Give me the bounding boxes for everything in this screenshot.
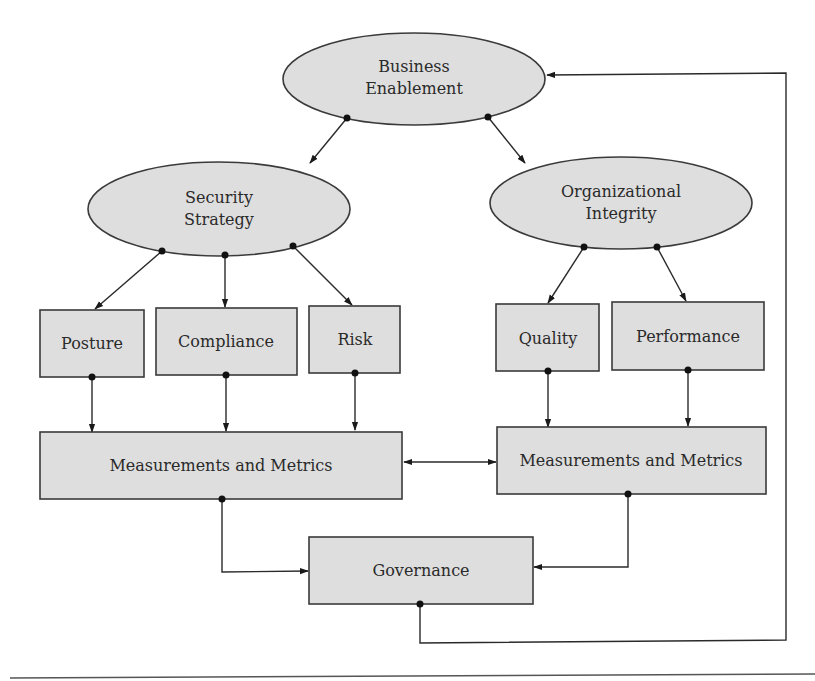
edge-ss-to-posture: [95, 251, 162, 309]
node-label: Measurements and Metrics: [109, 456, 332, 475]
node-posture: Posture: [40, 310, 144, 377]
edge-be-to-ss: [310, 118, 347, 163]
node-organizational-integrity: Organizational Integrity: [490, 157, 752, 249]
node-label: Measurements and Metrics: [519, 451, 742, 470]
edge-mm-left-to-governance: [222, 499, 308, 572]
node-label: Risk: [337, 330, 372, 349]
node-quality: Quality: [496, 304, 599, 371]
node-business-enablement: Business Enablement: [283, 33, 545, 125]
node-label-line2: Integrity: [586, 204, 657, 223]
edge-oi-to-performance: [657, 247, 686, 301]
node-label-line1: Security: [185, 188, 253, 207]
node-label: Quality: [519, 329, 578, 348]
edge-oi-to-quality: [548, 247, 584, 303]
node-label: Compliance: [178, 332, 274, 351]
node-label-line1: Business: [378, 57, 450, 76]
edge-ss-to-risk: [293, 246, 352, 305]
node-governance: Governance: [309, 537, 533, 604]
node-measurements-right: Measurements and Metrics: [497, 427, 766, 494]
node-performance: Performance: [612, 302, 764, 370]
node-risk: Risk: [309, 306, 400, 373]
node-security-strategy: Security Strategy: [88, 162, 350, 256]
node-label: Posture: [61, 334, 123, 353]
node-label: Performance: [636, 327, 740, 346]
node-compliance: Compliance: [156, 308, 297, 375]
edge-be-to-oi: [488, 117, 525, 163]
edge-mm-right-to-governance: [534, 494, 628, 567]
node-measurements-left: Measurements and Metrics: [40, 432, 402, 499]
node-label-line1: Organizational: [561, 182, 681, 201]
node-label-line2: Strategy: [184, 210, 254, 229]
security-governance-diagram: Business Enablement Security Strategy Or…: [0, 0, 815, 681]
node-label-line2: Enablement: [365, 79, 463, 98]
bottom-rule: [10, 674, 815, 678]
node-label: Governance: [372, 561, 469, 580]
